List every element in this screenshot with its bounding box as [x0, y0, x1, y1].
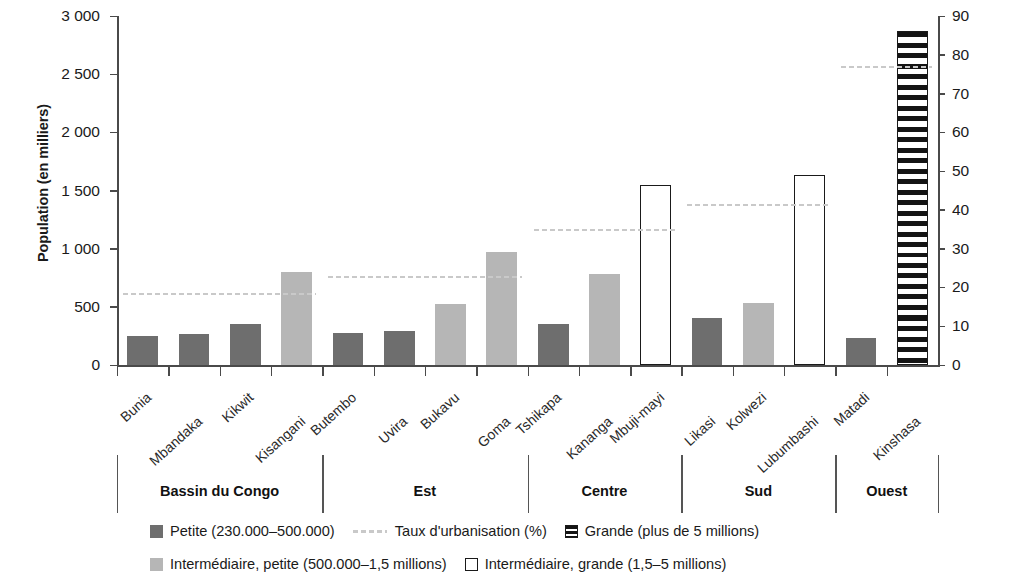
bar-kikwit — [230, 324, 261, 365]
y-tick-mark-left — [110, 306, 117, 308]
region-label-bassin-du-congo: Bassin du Congo — [117, 483, 322, 499]
y-tick-label-right: 50 — [952, 163, 992, 179]
y-axis-left-spine — [117, 16, 119, 367]
y-tick-label-right: 80 — [952, 47, 992, 63]
region-separator — [938, 455, 939, 513]
legend-swatch-inter-grande-icon — [465, 558, 478, 571]
x-tick-mark — [835, 367, 836, 376]
y-tick-label-left: 2 000 — [38, 124, 100, 140]
region-label-sud: Sud — [681, 483, 835, 499]
legend-row-1: Petite (230.000–500.000)Taux d'urbanisat… — [150, 523, 777, 539]
urbanisation-line-ouest — [841, 66, 932, 68]
y-tick-label-right: 90 — [952, 8, 992, 24]
bar-goma — [486, 252, 517, 365]
y-tick-label-right: 10 — [952, 318, 992, 334]
y-tick-label-right: 40 — [952, 202, 992, 218]
bar-matadi — [846, 338, 877, 365]
legend-item-petite[interactable]: Petite (230.000–500.000) — [150, 523, 335, 539]
x-tick-mark — [630, 367, 631, 376]
x-tick-mark — [528, 367, 529, 376]
legend-item-grande[interactable]: Grande (plus de 5 millions) — [565, 523, 759, 539]
bar-butembo — [333, 333, 364, 365]
x-tick-mark — [220, 367, 221, 376]
y-tick-label-left: 1 000 — [38, 241, 100, 257]
y-tick-label-left: 0 — [38, 357, 100, 373]
y-tick-label-left: 3 000 — [38, 8, 100, 24]
x-tick-mark — [784, 367, 785, 376]
legend-item-inter-grande[interactable]: Intermédiaire, grande (1,5–5 millions) — [465, 556, 727, 572]
x-tick-mark — [374, 367, 375, 376]
y-tick-label-left: 1 500 — [38, 183, 100, 199]
y-tick-label-left: 500 — [38, 299, 100, 315]
bar-bukavu — [435, 304, 466, 365]
legend-row-2: Intermédiaire, petite (500.000–1,5 milli… — [150, 556, 744, 572]
y-tick-label-left: 2 500 — [38, 66, 100, 82]
y-tick-mark-left — [110, 248, 117, 250]
y-tick-label-right: 70 — [952, 86, 992, 102]
y-tick-label-right: 0 — [952, 357, 992, 373]
legend-swatch-petite-icon — [150, 525, 163, 538]
bar-uvira — [384, 331, 415, 365]
bar-mbuji-mayi — [640, 185, 671, 365]
region-label-est: Est — [322, 483, 527, 499]
legend-label: Grande (plus de 5 millions) — [585, 523, 759, 539]
y-tick-label-right: 60 — [952, 124, 992, 140]
x-label-bunia: Bunia — [84, 389, 154, 454]
bar-bunia — [127, 336, 158, 365]
x-tick-mark — [579, 367, 580, 376]
bar-kananga — [589, 274, 620, 365]
y-tick-label-right: 30 — [952, 241, 992, 257]
y-tick-mark-left — [110, 365, 117, 367]
y-tick-label-right: 20 — [952, 279, 992, 295]
bar-likasi — [692, 318, 723, 365]
legend-swatch-grande-icon — [565, 525, 578, 538]
legend-item-urb[interactable]: Taux d'urbanisation (%) — [353, 523, 547, 539]
bar-kolwezi — [743, 303, 774, 365]
legend-swatch-inter-petite-icon — [150, 558, 163, 571]
y-tick-mark-left — [110, 190, 117, 192]
urbanisation-line-est — [328, 276, 521, 278]
legend-label: Taux d'urbanisation (%) — [395, 523, 547, 539]
legend-label: Intermédiaire, petite (500.000–1,5 milli… — [170, 556, 447, 572]
legend-item-inter-petite[interactable]: Intermédiaire, petite (500.000–1,5 milli… — [150, 556, 447, 572]
y-tick-mark-left — [110, 16, 117, 18]
x-tick-mark — [476, 367, 477, 376]
x-tick-mark — [322, 367, 323, 376]
y-tick-mark-left — [110, 74, 117, 76]
region-label-ouest: Ouest — [835, 483, 938, 499]
legend-label: Petite (230.000–500.000) — [170, 523, 335, 539]
urbanisation-line-bassin-du-congo — [123, 293, 316, 295]
x-label-kinshasa: Kinshasa — [854, 413, 924, 478]
bar-tshikapa — [538, 324, 569, 365]
bar-kinshasa — [897, 31, 928, 365]
x-tick-mark — [271, 367, 272, 376]
urbanisation-line-centre — [534, 229, 676, 231]
x-tick-mark — [733, 367, 734, 376]
region-label-centre: Centre — [528, 483, 682, 499]
urbanisation-line-sud — [687, 204, 829, 206]
x-tick-mark — [117, 367, 118, 376]
x-tick-mark — [425, 367, 426, 376]
bar-kisangani — [281, 272, 312, 365]
legend-label: Intermédiaire, grande (1,5–5 millions) — [485, 556, 727, 572]
chart-container: Population (en milliers) Taux d'urbanisa… — [0, 0, 1030, 586]
x-tick-mark — [168, 367, 169, 376]
y-axis-right-spine — [938, 16, 940, 367]
x-tick-mark — [887, 367, 888, 376]
x-tick-mark — [681, 367, 682, 376]
y-tick-mark-left — [110, 132, 117, 134]
legend-swatch-urb-icon — [353, 530, 387, 533]
bar-mbandaka — [179, 334, 210, 365]
